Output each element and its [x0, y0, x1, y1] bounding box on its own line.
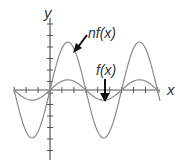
function-graph: y x nf(x) f(x): [0, 0, 186, 164]
f-label: f(x): [96, 62, 116, 78]
x-axis-label: x: [166, 81, 175, 98]
f-arrowhead-icon: [100, 93, 110, 102]
nf-arrow-shaft: [78, 35, 87, 47]
nf-label: nf(x): [88, 25, 116, 41]
y-axis-label: y: [43, 4, 53, 21]
